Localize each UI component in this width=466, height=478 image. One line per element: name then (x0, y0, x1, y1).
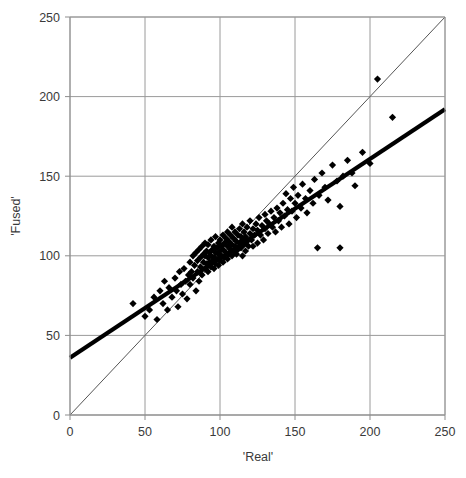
scatter-chart: 050100150200250050100150200250 'Real' 'F… (0, 0, 466, 478)
data-point (311, 176, 318, 183)
data-point (129, 300, 136, 307)
data-point (171, 274, 178, 281)
data-point (255, 214, 262, 221)
y-axis-title: 'Fused' (9, 196, 23, 236)
data-point (159, 300, 166, 307)
data-point (282, 190, 289, 197)
y-tick-label: 200 (39, 90, 60, 104)
data-point (374, 75, 381, 82)
data-point (153, 316, 160, 323)
data-point (329, 161, 336, 168)
x-tick-label: 150 (285, 425, 306, 439)
data-point (261, 211, 268, 218)
y-tick-label: 150 (39, 170, 60, 184)
data-point (141, 313, 148, 320)
data-point (161, 278, 168, 285)
data-point (168, 294, 175, 301)
x-tick-label: 200 (360, 425, 381, 439)
data-point (278, 224, 285, 231)
data-points-layer (129, 75, 396, 323)
data-point (246, 217, 253, 224)
data-point (179, 290, 186, 297)
data-point (351, 182, 358, 189)
data-point (303, 209, 310, 216)
data-point (336, 203, 343, 210)
data-point (156, 287, 163, 294)
data-point (359, 149, 366, 156)
data-point (285, 220, 292, 227)
data-point (183, 295, 190, 302)
plot-svg: 050100150200250050100150200250 'Real' 'F… (0, 0, 466, 478)
x-axis-title: 'Real' (243, 450, 273, 464)
data-point (195, 278, 202, 285)
data-point (299, 181, 306, 188)
x-tick-label: 0 (67, 425, 74, 439)
y-tick-label: 100 (39, 249, 60, 263)
y-tick-label: 250 (39, 11, 60, 25)
x-tick-label: 100 (210, 425, 231, 439)
data-point (164, 306, 171, 313)
data-point (389, 114, 396, 121)
data-point (287, 195, 294, 202)
data-point (324, 196, 331, 203)
data-point (344, 157, 351, 164)
data-point (290, 184, 297, 191)
data-point (267, 208, 274, 215)
data-point (336, 244, 343, 251)
data-point (314, 244, 321, 251)
data-point (318, 169, 325, 176)
data-point (279, 200, 286, 207)
x-tick-label: 250 (435, 425, 456, 439)
data-point (192, 287, 199, 294)
data-point (306, 187, 313, 194)
data-point (174, 303, 181, 310)
y-tick-label: 0 (53, 409, 60, 423)
x-tick-label: 50 (138, 425, 152, 439)
y-tick-label: 50 (46, 329, 60, 343)
data-point (293, 214, 300, 221)
